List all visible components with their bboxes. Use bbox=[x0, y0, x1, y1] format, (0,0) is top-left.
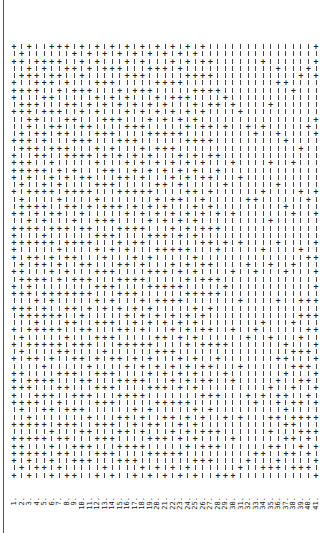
plus-mark bbox=[312, 72, 320, 79]
plus-mark bbox=[312, 239, 320, 246]
plus-mark bbox=[312, 116, 320, 123]
line-number: 21. bbox=[161, 497, 169, 510]
minus-mark bbox=[312, 152, 320, 159]
plus-mark bbox=[312, 283, 320, 290]
plus-mark bbox=[312, 472, 320, 479]
plus-mark bbox=[312, 297, 320, 304]
plus-mark bbox=[312, 399, 320, 406]
minus-mark bbox=[312, 174, 320, 181]
minus-mark bbox=[312, 94, 320, 101]
minus-mark bbox=[312, 101, 320, 108]
minus-mark bbox=[312, 217, 320, 224]
line-number: 1. bbox=[10, 497, 18, 505]
plus-mark bbox=[312, 268, 320, 275]
plus-mark bbox=[312, 370, 320, 377]
plus-mark bbox=[312, 43, 320, 50]
line-number: 12. bbox=[93, 497, 101, 510]
line-number: 23. bbox=[176, 497, 184, 510]
line-number: 5. bbox=[40, 497, 48, 505]
line-number: 34. bbox=[259, 497, 267, 510]
plus-mark bbox=[312, 326, 320, 333]
plus-mark bbox=[312, 457, 320, 464]
line-number: 30. bbox=[229, 497, 237, 510]
plus-mark bbox=[312, 188, 320, 195]
line-number: 25. bbox=[191, 497, 199, 510]
plus-mark bbox=[312, 384, 320, 391]
minus-mark bbox=[312, 137, 320, 144]
margin-line bbox=[3, 0, 4, 533]
minus-mark bbox=[312, 196, 320, 203]
plus-mark bbox=[312, 210, 320, 217]
plus-mark bbox=[312, 254, 320, 261]
plus-mark bbox=[312, 355, 320, 362]
line-number: 10. bbox=[78, 497, 86, 510]
plus-mark bbox=[312, 341, 320, 348]
plus-mark bbox=[312, 312, 320, 319]
minus-mark bbox=[312, 159, 320, 166]
plus-mark bbox=[312, 428, 320, 435]
plus-mark bbox=[312, 130, 320, 137]
plus-mark bbox=[312, 58, 320, 65]
document-line bbox=[312, 43, 320, 479]
minus-mark bbox=[312, 145, 320, 152]
line-number: 14. bbox=[108, 497, 116, 510]
line-number: 41. bbox=[312, 497, 320, 510]
line-number: 32. bbox=[244, 497, 252, 510]
minus-mark bbox=[312, 79, 320, 86]
minus-mark bbox=[312, 167, 320, 174]
minus-mark bbox=[312, 87, 320, 94]
line-number: 3. bbox=[25, 497, 33, 505]
plus-mark bbox=[312, 414, 320, 421]
plus-mark bbox=[312, 443, 320, 450]
minus-mark bbox=[312, 225, 320, 232]
